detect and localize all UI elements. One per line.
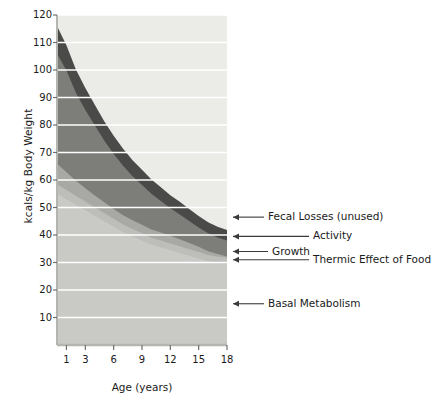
callout-arrowhead-icon xyxy=(233,233,239,239)
callout-label: Basal Metabolism xyxy=(268,298,361,309)
annotation-arrows xyxy=(233,214,309,307)
stacked-area-plot xyxy=(0,0,434,406)
callout-arrowhead-icon xyxy=(233,257,239,263)
callout-label: Growth xyxy=(272,246,310,257)
callout-arrowhead-icon xyxy=(233,249,239,255)
chart-figure: kcals/kg Body Weight 1020304050607080901… xyxy=(0,0,434,406)
callout-arrowhead-icon xyxy=(233,301,239,307)
callout-label: Fecal Losses (unused) xyxy=(268,211,383,222)
callout-label: Thermic Effect of Food xyxy=(313,254,431,265)
callout-arrowhead-icon xyxy=(233,214,239,220)
callout-label: Activity xyxy=(313,230,352,241)
